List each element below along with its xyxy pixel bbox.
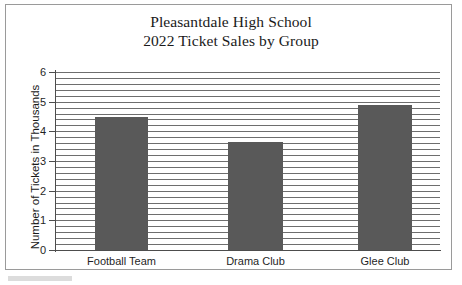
- y-tick-mark: [49, 220, 56, 221]
- bar-drama-club: [228, 142, 283, 250]
- y-tick-mark: [49, 250, 56, 251]
- y-tick-label: 0: [33, 244, 46, 256]
- y-tick-label: 3: [33, 155, 46, 167]
- y-tick-mark: [49, 102, 56, 103]
- chart-title-line-1: Pleasantdale High School: [0, 12, 462, 31]
- y-tick-mark: [49, 131, 56, 132]
- y-tick-label: 1: [33, 214, 46, 226]
- x-axis-line: [55, 250, 441, 251]
- bar-glee-club: [358, 105, 412, 250]
- x-category-label-drama-club: Drama Club: [196, 255, 316, 267]
- chart-title-line-2: 2022 Ticket Sales by Group: [0, 31, 462, 50]
- bar-football-team: [95, 117, 148, 251]
- x-category-label-football-team: Football Team: [62, 255, 182, 267]
- chart-figure: Pleasantdale High School 2022 Ticket Sal…: [0, 0, 462, 285]
- y-tick-mark: [49, 161, 56, 162]
- x-category-label-glee-club: Glee Club: [325, 255, 445, 267]
- y-tick-mark: [49, 191, 56, 192]
- chart-title: Pleasantdale High School 2022 Ticket Sal…: [0, 12, 462, 50]
- y-tick-mark: [49, 72, 56, 73]
- y-tick-label: 2: [33, 185, 46, 197]
- y-tick-label: 4: [33, 125, 46, 137]
- scan-artifact: [8, 276, 72, 281]
- y-tick-label: 5: [33, 96, 46, 108]
- y-tick-label: 6: [33, 66, 46, 78]
